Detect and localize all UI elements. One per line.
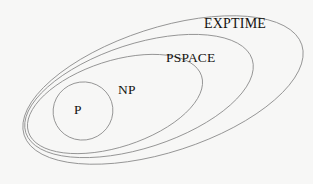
label-exptime: EXPTIME — [204, 17, 266, 31]
label-p: P — [74, 103, 82, 117]
complexity-class-diagram: EXPTIME PSPACE NP P — [0, 0, 313, 184]
label-pspace: PSPACE — [166, 51, 216, 65]
ellipse-exptime — [5, 0, 313, 184]
ellipse-pspace — [10, 10, 268, 182]
label-np: NP — [118, 83, 136, 97]
